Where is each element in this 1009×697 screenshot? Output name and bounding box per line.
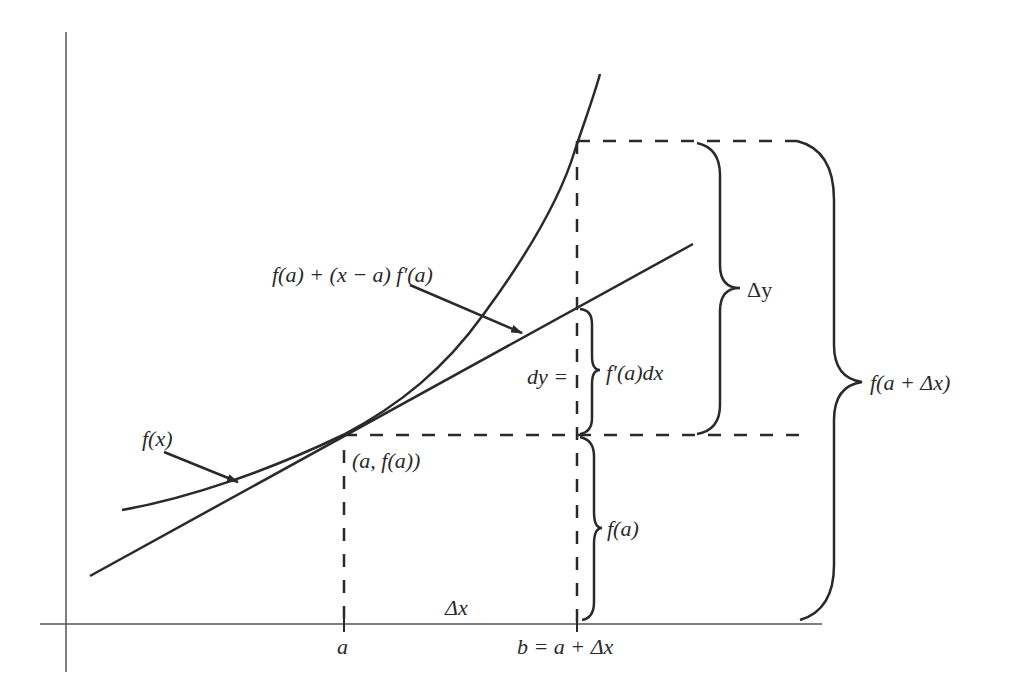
diagram-svg bbox=[0, 0, 1009, 697]
brace-delta-y bbox=[697, 143, 740, 434]
label-dy: dy = bbox=[527, 366, 568, 388]
label-delta-y: Δy bbox=[747, 279, 772, 301]
label-tick-b: b = a + Δx bbox=[517, 636, 613, 658]
dashed-guides bbox=[344, 141, 800, 624]
arrow-to-curve bbox=[164, 452, 238, 482]
label-delta-x: Δx bbox=[445, 597, 468, 619]
curve-fx bbox=[122, 74, 600, 510]
label-curve-fx: f(x) bbox=[142, 428, 173, 450]
label-fa: f(a) bbox=[607, 518, 639, 540]
label-f-a-plus-dx: f(a + Δx) bbox=[870, 372, 950, 394]
brace-f-a-plus-dx bbox=[797, 141, 862, 620]
diagram-canvas: f(a) + (x − a) f′(a) f(x) (a, f(a)) dy =… bbox=[0, 0, 1009, 697]
label-tick-a: a bbox=[337, 636, 348, 658]
label-point-a-fa: (a, f(a)) bbox=[352, 450, 420, 472]
label-tangent-line: f(a) + (x − a) f′(a) bbox=[272, 264, 433, 286]
brace-fa bbox=[580, 437, 602, 620]
brace-dy bbox=[580, 309, 600, 434]
arrow-to-tangent bbox=[410, 285, 522, 333]
label-dy-value: f′(a)dx bbox=[606, 362, 663, 384]
tangent-line bbox=[90, 244, 693, 576]
axes bbox=[40, 32, 822, 672]
